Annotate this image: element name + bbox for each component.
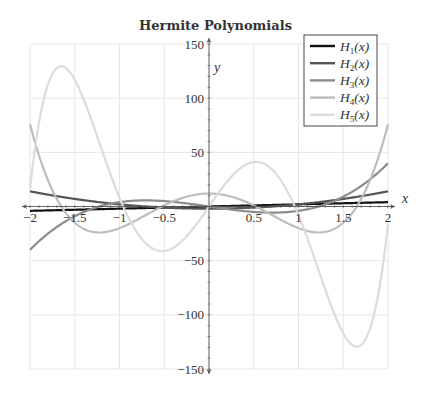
y-tick-label: 100: [185, 91, 205, 106]
x-tick-label: 1: [295, 210, 302, 225]
y-tick-label: −50: [184, 253, 204, 268]
legend-label: H2(x): [339, 56, 370, 73]
x-tick-label: −2: [23, 210, 37, 225]
plot-area: −2−1.5−1−0.50.511.52−150−100−5050100150 …: [0, 0, 431, 399]
y-tick-label: 50: [191, 145, 204, 160]
x-axis-label: x: [401, 191, 409, 206]
x-tick-label: −0.5: [152, 210, 176, 225]
x-tick-label: 2: [385, 210, 392, 225]
y-tick-label: −150: [177, 362, 204, 377]
y-tick-label: −100: [177, 307, 204, 322]
y-tick-label: 150: [185, 37, 205, 52]
legend-label: H3(x): [339, 73, 370, 90]
x-tick-label: −1.5: [63, 210, 87, 225]
legend: H1(x)H2(x)H3(x)H4(x)H5(x): [304, 35, 377, 126]
legend-label: H4(x): [339, 90, 370, 107]
y-axis-label: y: [212, 60, 221, 75]
legend-label: H5(x): [339, 107, 370, 124]
x-tick-label: −1: [113, 210, 127, 225]
legend-label: H1(x): [339, 39, 370, 56]
hermite-chart: Hermite Polynomials −2−1.5−1−0.50.511.52…: [0, 0, 431, 399]
x-tick-label: 0.5: [246, 210, 262, 225]
x-tick-label: 1.5: [335, 210, 351, 225]
